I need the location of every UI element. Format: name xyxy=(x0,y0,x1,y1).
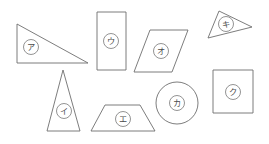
shape-group-right-triangle[interactable]: ア xyxy=(17,24,88,63)
shape-label-u: ウ xyxy=(107,36,115,46)
figure-canvas: ア ウ オ キ イ エ カ xyxy=(0,0,269,144)
shape-label-ka: カ xyxy=(173,98,181,108)
shape-group-square[interactable]: ク xyxy=(213,70,253,113)
shape-group-isoceles-triangle[interactable]: イ xyxy=(47,70,80,131)
shape-group-circle[interactable]: カ xyxy=(156,82,198,124)
shape-label-i: イ xyxy=(60,106,68,116)
isoceles-triangle-outline[interactable] xyxy=(47,70,80,131)
shape-group-tall-rectangle[interactable]: ウ xyxy=(97,12,126,70)
shape-group-parallelogram[interactable]: オ xyxy=(134,30,188,72)
shape-label-ku: ク xyxy=(229,87,237,97)
shape-label-a: ア xyxy=(27,42,35,52)
geometric-shapes-figure: ア ウ オ キ イ エ カ xyxy=(0,0,269,144)
shape-label-o: オ xyxy=(157,46,165,56)
shape-label-e: エ xyxy=(119,114,127,124)
shape-label-ki: キ xyxy=(222,19,230,29)
shape-group-thin-triangle[interactable]: キ xyxy=(208,11,252,38)
shape-group-trapezoid[interactable]: エ xyxy=(91,105,155,131)
